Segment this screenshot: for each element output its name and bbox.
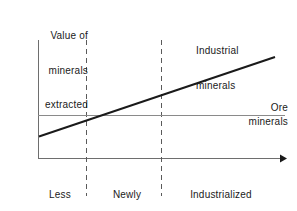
mineral-value-diagram: Value of minerals extracted Industrial m… [0,0,297,211]
series-label-industrial-line-2: minerals [196,80,292,92]
category-label-newly-developed: Newly developed countries [96,166,158,211]
x-axis-arrow-icon [280,155,287,163]
series-label-ore-minerals-line-1: Ore [226,102,288,114]
y-axis-label: Value of minerals extracted [6,7,88,134]
category-label-less-developed: Less developed countries [31,166,89,211]
category-label-newly-developed-line-1: Newly [96,189,158,201]
y-axis-label-line-1: Value of [6,30,88,42]
y-axis-label-line-3: extracted [6,99,88,111]
series-label-industrial-line-1: Industrial [196,45,292,57]
category-label-industrialized: Industrialized countries [167,166,275,211]
category-label-industrialized-line-1: Industrialized [167,189,275,201]
series-label-industrial-minerals: Industrial minerals [196,22,292,114]
category-label-less-developed-line-1: Less [31,189,89,201]
series-label-ore-minerals-line-2: minerals [218,116,288,128]
y-axis-label-line-2: minerals [6,65,88,77]
